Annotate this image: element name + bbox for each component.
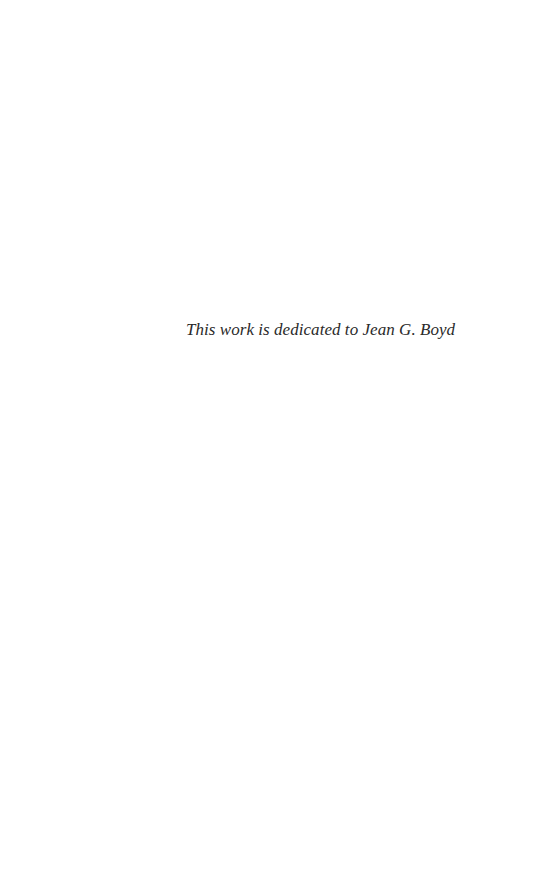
dedication-page: This work is dedicated to Jean G. Boyd [0, 0, 534, 880]
dedication-text: This work is dedicated to Jean G. Boyd [186, 319, 455, 341]
